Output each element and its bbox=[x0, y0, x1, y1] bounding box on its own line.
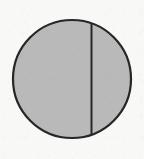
circle-shape bbox=[13, 20, 131, 138]
circle-chord-diagram: Circle divided by a vertical chord A gra… bbox=[0, 0, 144, 159]
figure-root: Circle divided by a vertical chord A gra… bbox=[0, 0, 144, 159]
